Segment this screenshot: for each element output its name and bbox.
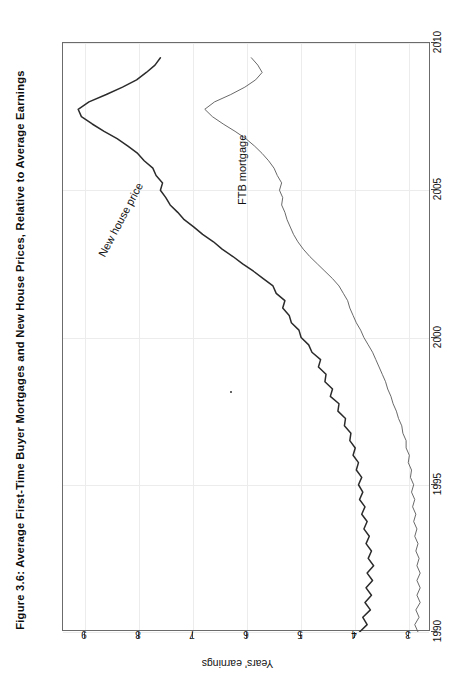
- series-label-ftb-mortgage: FTB mortgage: [236, 135, 248, 205]
- y-axis-label: 3: [406, 629, 412, 640]
- y-axis-label: 4: [351, 629, 357, 640]
- x-axis-label: 2005: [432, 178, 443, 200]
- x-axis-label: 2010: [432, 31, 443, 53]
- plot-frame: [62, 42, 430, 631]
- y-axis-label: 7: [189, 629, 195, 640]
- figure-page: Figure 3.6: Average First-Time Buyer Mor…: [0, 0, 475, 699]
- figure-title-container: Figure 3.6: Average First-Time Buyer Mor…: [0, 0, 40, 699]
- plot-canvas: [63, 43, 431, 632]
- speck-artifact: [230, 391, 232, 393]
- series-line-new-house-price: [78, 58, 373, 632]
- y-axis-label: 9: [81, 629, 87, 640]
- y-axis-label: 8: [135, 629, 141, 640]
- x-axis-label: 1995: [432, 473, 443, 495]
- y-axis-title: Years' earnings: [0, 658, 475, 670]
- x-axis-label: 2000: [432, 325, 443, 347]
- page-title: Figure 3.6: Average First-Time Buyer Mor…: [14, 70, 26, 630]
- y-axis-label: 6: [243, 629, 249, 640]
- y-axis-label: 5: [297, 629, 303, 640]
- x-axis-label: 1990: [432, 620, 443, 642]
